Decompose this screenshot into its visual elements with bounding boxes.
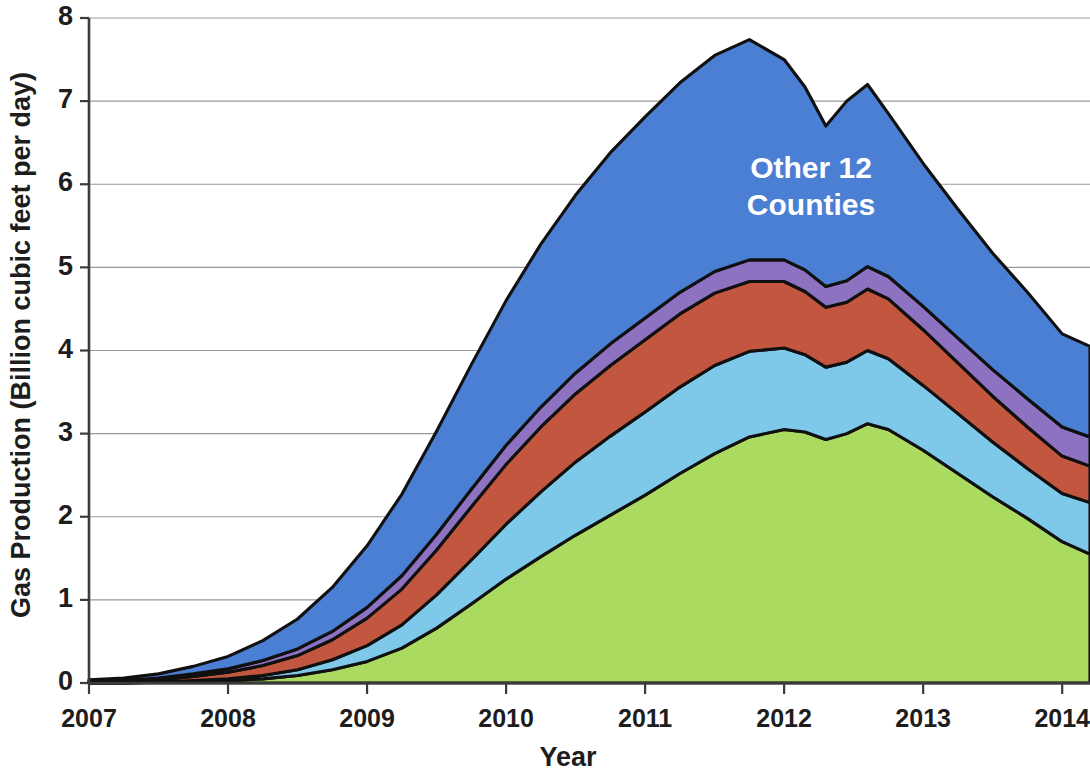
y-tick-label: 0 bbox=[58, 666, 73, 696]
gas-production-stacked-area-chart: 012345678 200720082009201020112012201320… bbox=[0, 0, 1090, 773]
x-tick-label: 2013 bbox=[895, 704, 951, 732]
x-tick-label: 2009 bbox=[339, 704, 395, 732]
y-tick-label: 5 bbox=[58, 251, 73, 281]
x-tick-label: 2010 bbox=[478, 704, 534, 732]
y-tick-label: 7 bbox=[58, 84, 73, 114]
x-tick-label: 2011 bbox=[618, 704, 672, 732]
area-label-other-12-counties-line: Counties bbox=[747, 188, 875, 221]
y-tick-label: 1 bbox=[58, 583, 73, 613]
chart-canvas: 012345678 200720082009201020112012201320… bbox=[0, 0, 1090, 773]
y-tick-label: 4 bbox=[58, 334, 73, 364]
x-axis-title: Year bbox=[539, 742, 597, 772]
x-tick-label: 2008 bbox=[200, 704, 256, 732]
x-tick-label: 2012 bbox=[756, 704, 812, 732]
y-axis-title: Gas Production (Billion cubic feet per d… bbox=[6, 72, 36, 618]
y-tick-label: 6 bbox=[58, 167, 73, 197]
y-tick-label: 3 bbox=[58, 417, 73, 447]
y-tick-label: 8 bbox=[58, 1, 73, 31]
y-axis-tick-labels: 012345678 bbox=[58, 1, 73, 696]
y-tick-label: 2 bbox=[58, 500, 73, 530]
x-tick-label: 2007 bbox=[61, 704, 117, 732]
area-label-other-12-counties-line: Other 12 bbox=[750, 151, 872, 184]
x-axis-tick-labels: 20072008200920102011201220132014 bbox=[61, 704, 1090, 732]
stacked-area-series bbox=[89, 40, 1090, 683]
x-tick-label: 2014 bbox=[1034, 704, 1090, 732]
